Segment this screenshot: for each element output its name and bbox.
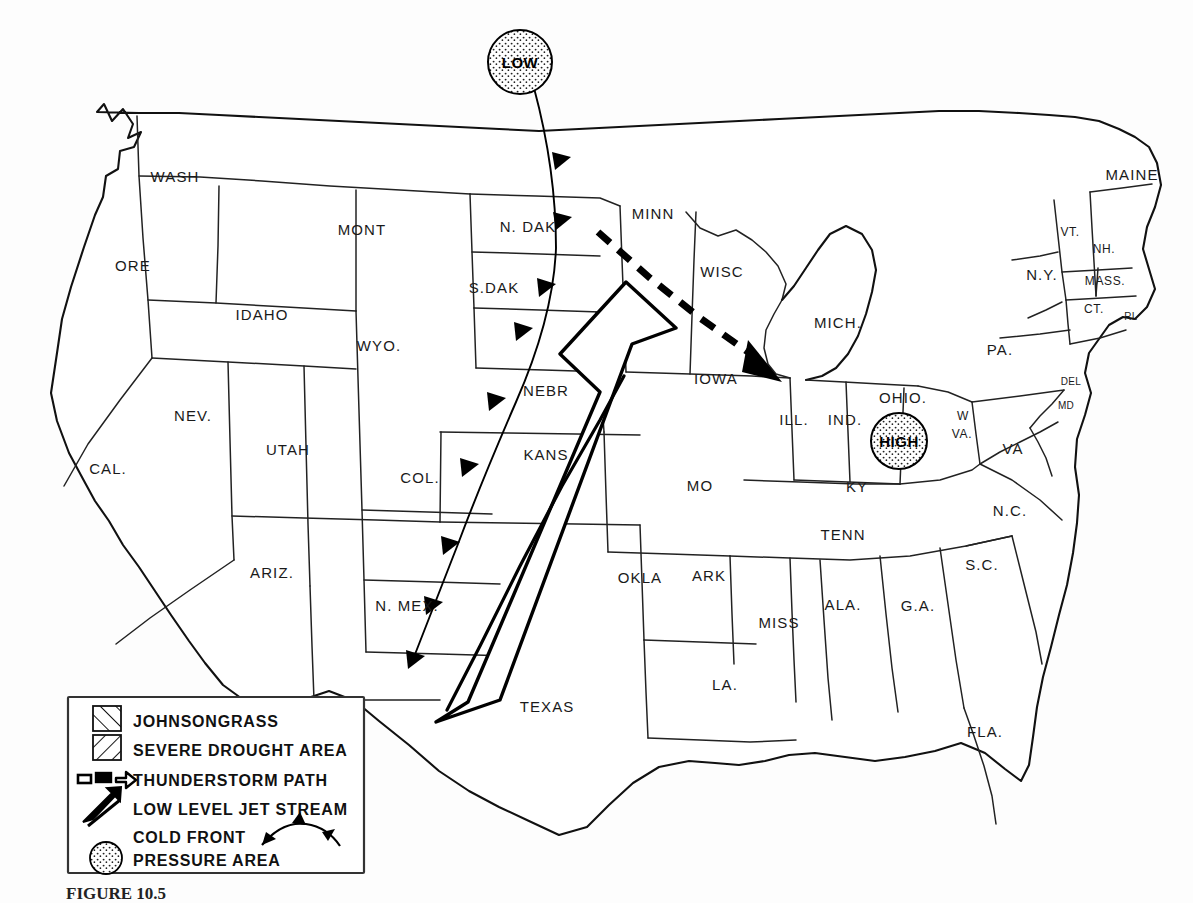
state-label: MD: [1058, 400, 1074, 411]
state-label: IDAHO: [235, 306, 288, 323]
state-label: PA.: [987, 341, 1013, 358]
low-pressure-system: LOW: [488, 30, 552, 94]
state-label: IND.: [828, 411, 862, 428]
figure-caption: FIGURE 10.5: [66, 884, 166, 903]
legend-label-thunderstorm-path: THUNDERSTORM PATH: [133, 772, 328, 789]
state-label: OKLA: [618, 569, 662, 586]
state-label: G.A.: [901, 597, 935, 614]
state-label: TENN: [820, 526, 865, 543]
state-label: ARK: [692, 567, 726, 584]
high-pressure-label: HIGH: [879, 433, 919, 450]
state-label: MONT: [338, 221, 387, 238]
state-label: NH.: [1093, 242, 1115, 256]
state-label: MAINE: [1105, 166, 1158, 183]
state-label: MO: [687, 477, 713, 494]
state-label: KANS: [523, 446, 568, 463]
legend-label-johnsongrass: JOHNSONGRASS: [133, 713, 279, 730]
state-label: COL.: [400, 469, 439, 486]
state-label: S.C.: [965, 556, 999, 573]
legend-label-low-level-jet: LOW LEVEL JET STREAM: [133, 801, 348, 818]
state-label: WYO.: [357, 337, 401, 354]
state-label: FLA.: [967, 723, 1003, 740]
state-label: S.DAK: [469, 279, 520, 296]
state-label: VA: [1002, 440, 1023, 457]
legend: JOHNSONGRASS SEVERE DROUGHT AREA THUNDER…: [68, 697, 364, 874]
state-label: MASS.: [1085, 274, 1125, 288]
state-label: WISC: [700, 263, 744, 280]
legend-label-cold-front: COLD FRONT: [133, 829, 246, 846]
state-label: NEBR: [523, 382, 569, 399]
state-label: ORE: [115, 257, 151, 274]
state-label: N.C.: [993, 502, 1027, 519]
state-label: VT.: [1060, 225, 1079, 239]
state-label: MINN: [632, 205, 675, 222]
figure-canvas: LOW HIGH WASHOREIDAHOMONTWYO.NEV.CAL.UTA…: [0, 0, 1193, 903]
state-label: RI.: [1124, 311, 1138, 322]
state-label: MICH.: [814, 314, 862, 331]
state-label: LA.: [712, 676, 738, 693]
state-label: KY: [846, 478, 868, 495]
state-label: MISS: [758, 614, 799, 631]
state-label: IOWA: [694, 370, 738, 387]
state-label: N.Y.: [1026, 266, 1058, 283]
low-pressure-label: LOW: [502, 54, 539, 71]
legend-label-pressure-area: PRESSURE AREA: [133, 852, 281, 869]
state-label: W: [957, 409, 969, 423]
state-label: VA.: [952, 427, 972, 441]
state-label: UTAH: [266, 441, 310, 458]
state-label: WASH: [151, 168, 200, 185]
legend-swatch-johnsongrass: [93, 706, 121, 731]
state-label: ARIZ.: [250, 564, 294, 581]
high-pressure-system: HIGH: [871, 413, 927, 469]
state-label: OHIO.: [879, 389, 927, 406]
state-label: NEV.: [174, 407, 212, 424]
us-weather-map: LOW HIGH WASHOREIDAHOMONTWYO.NEV.CAL.UTA…: [0, 0, 1193, 903]
state-label: CT.: [1084, 302, 1104, 316]
state-label: ALA.: [825, 596, 862, 613]
state-label: DEL: [1061, 376, 1081, 387]
legend-swatch-severe-drought: [93, 735, 121, 760]
state-label: N. DAK: [500, 218, 557, 235]
legend-symbol-pressure-area: [90, 842, 122, 874]
state-label: N. MEX.: [375, 597, 439, 614]
state-label: ILL.: [779, 411, 808, 428]
state-label: CAL.: [89, 460, 127, 477]
state-label: TEXAS: [520, 698, 575, 715]
legend-label-severe-drought: SEVERE DROUGHT AREA: [133, 742, 348, 759]
